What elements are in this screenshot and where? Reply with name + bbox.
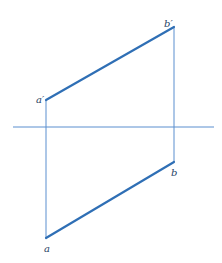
label-a-prime: a′ — [36, 94, 45, 105]
front-view-segment — [46, 27, 174, 100]
projection-diagram: a′ b′ b a — [0, 0, 222, 263]
label-b-prime: b′ — [164, 18, 173, 29]
label-b: b — [171, 167, 177, 178]
top-view-segment — [46, 162, 174, 238]
label-a: a — [44, 243, 50, 254]
